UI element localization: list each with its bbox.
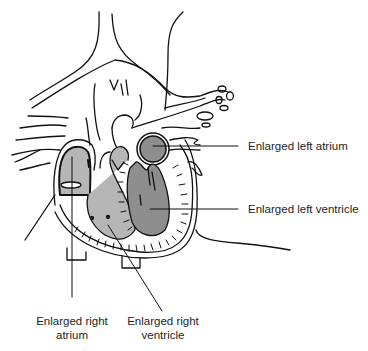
label-right-ventricle-line2: ventricle — [125, 328, 201, 342]
label-enlarged-right-atrium: Enlarged right atrium — [34, 314, 110, 342]
label-right-atrium-line1: Enlarged right — [34, 314, 110, 328]
heart-illustration — [0, 0, 368, 351]
left-ventricle — [127, 162, 238, 236]
label-enlarged-left-atrium: Enlarged left atrium — [248, 139, 348, 153]
label-enlarged-right-ventricle: Enlarged right ventricle — [125, 314, 201, 342]
right-atrium — [54, 140, 95, 297]
label-right-atrium-line2: atrium — [34, 328, 110, 342]
label-enlarged-left-ventricle: Enlarged left ventricle — [248, 202, 359, 216]
label-right-ventricle-line1: Enlarged right — [125, 314, 201, 328]
heart-diagram: Enlarged left atrium Enlarged left ventr… — [0, 0, 368, 351]
